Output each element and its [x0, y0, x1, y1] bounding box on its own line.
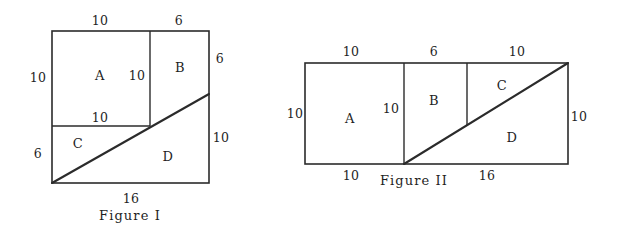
fig1-bottom-16: 16 [123, 191, 140, 206]
fig1-left-6: 6 [34, 146, 42, 161]
figure-1-region-label-b: B [175, 60, 185, 75]
dissection-diagram-canvas: A B C D 10 6 10 10 6 10 6 10 16 Figure I… [0, 0, 617, 240]
fig1-inner-vertical-10: 10 [129, 68, 146, 83]
fig2-bottom-10: 10 [343, 168, 360, 183]
figure-2-region-label-d: D [507, 130, 518, 145]
fig2-left-10: 10 [287, 106, 304, 121]
fig1-top-left-10: 10 [92, 13, 109, 28]
figure-1-region-label-c: C [73, 136, 83, 151]
fig1-right-6: 6 [216, 51, 224, 66]
fig2-top-10-right: 10 [509, 44, 526, 59]
fig2-bottom-16: 16 [479, 168, 496, 183]
fig2-top-10-left: 10 [343, 44, 360, 59]
fig2-right-10: 10 [571, 109, 588, 124]
fig2-inner-10: 10 [383, 101, 400, 116]
figure-2-caption: Figure II [380, 173, 448, 188]
figure-2-diagonal [404, 63, 568, 164]
fig1-left-10: 10 [30, 70, 47, 85]
figure-1-region-label-d: D [163, 149, 174, 164]
fig1-inner-horizontal-10: 10 [92, 110, 109, 125]
figure-2-region-label-b: B [429, 93, 439, 108]
figure-2-region-label-c: C [497, 78, 507, 93]
fig1-top-right-6: 6 [175, 13, 183, 28]
fig1-right-10: 10 [213, 130, 230, 145]
figure-sheet: A B C D 10 6 10 10 6 10 6 10 16 Figure I… [0, 0, 617, 240]
figure-2-region-label-a: A [344, 111, 355, 126]
figure-1-caption: Figure I [99, 208, 161, 223]
fig2-top-6: 6 [430, 44, 438, 59]
figure-2-group: A B C D 10 6 10 10 10 10 10 16 Figure II [287, 44, 588, 188]
figure-1-group: A B C D 10 6 10 10 6 10 6 10 16 Figure I [30, 13, 230, 223]
figure-1-region-label-a: A [94, 68, 105, 83]
